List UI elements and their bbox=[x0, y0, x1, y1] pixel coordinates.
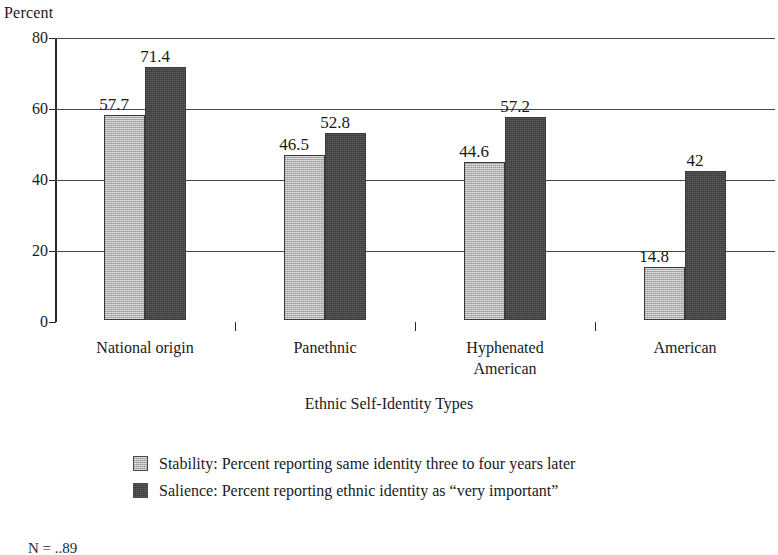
value-label-salience-american: 42 bbox=[665, 152, 725, 169]
legend-swatch-stability bbox=[133, 456, 148, 471]
legend-label-salience: Salience: Percent reporting ethnic ident… bbox=[159, 481, 558, 500]
bar-stability-hyphenated-american bbox=[464, 162, 505, 320]
bar-salience-hyphenated-american bbox=[505, 117, 546, 320]
legend-label-stability: Stability: Percent reporting same identi… bbox=[159, 454, 575, 473]
bar-salience-american bbox=[685, 171, 726, 320]
value-label-salience-hyphenated-american: 57.2 bbox=[485, 98, 545, 115]
legend-item-salience: Salience: Percent reporting ethnic ident… bbox=[133, 477, 575, 504]
value-label-salience-panethnic: 52.8 bbox=[305, 114, 365, 131]
category-label-american: American bbox=[595, 337, 775, 358]
value-label-stability-american: 14.8 bbox=[624, 248, 684, 265]
bar-stability-american bbox=[644, 267, 685, 320]
category-label-hyphenated-american: Hyphenated American bbox=[415, 337, 595, 379]
y-tick-label-0: 0 bbox=[8, 314, 48, 330]
value-label-stability-national-origin: 57.7 bbox=[84, 96, 144, 113]
y-tick-label-20: 20 bbox=[8, 243, 48, 259]
y-axis-title: Percent bbox=[4, 4, 53, 22]
chart-legend: Stability: Percent reporting same identi… bbox=[133, 450, 575, 504]
category-tick-2 bbox=[415, 322, 416, 331]
bar-salience-national-origin bbox=[145, 67, 186, 320]
value-label-stability-panethnic: 46.5 bbox=[264, 136, 324, 153]
gridline-80 bbox=[55, 38, 775, 39]
category-label-panethnic: Panethnic bbox=[235, 337, 415, 358]
x-axis-title: Ethnic Self-Identity Types bbox=[0, 394, 778, 413]
y-tick-label-60: 60 bbox=[8, 101, 48, 117]
bar-stability-panethnic bbox=[284, 155, 325, 320]
legend-item-stability: Stability: Percent reporting same identi… bbox=[133, 450, 575, 477]
y-tick-mark-0 bbox=[49, 322, 56, 323]
value-label-salience-national-origin: 71.4 bbox=[125, 48, 185, 65]
legend-swatch-salience bbox=[133, 483, 148, 498]
y-tick-label-80: 80 bbox=[8, 30, 48, 46]
category-tick-3 bbox=[595, 322, 596, 331]
sample-size-footnote: N = ..89 bbox=[28, 540, 77, 555]
plot-area bbox=[55, 38, 775, 322]
y-tick-label-40: 40 bbox=[8, 172, 48, 188]
bar-salience-panethnic bbox=[325, 133, 366, 320]
category-tick-1 bbox=[235, 322, 236, 331]
bar-chart-figure: Percent 80 60 40 20 0 57.7 71.4 46.5 52.… bbox=[0, 0, 778, 555]
bar-stability-national-origin bbox=[104, 115, 145, 320]
value-label-stability-hyphenated-american: 44.6 bbox=[444, 143, 504, 160]
category-label-national-origin: National origin bbox=[55, 337, 235, 358]
